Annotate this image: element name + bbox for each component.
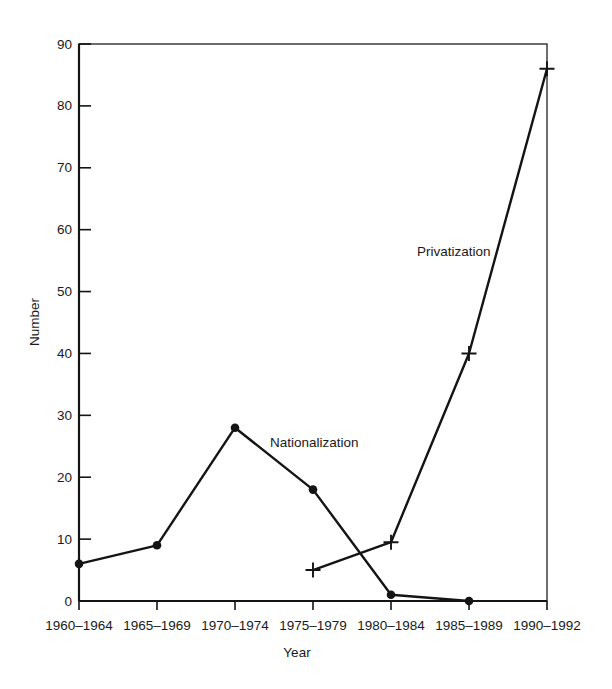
data-point-marker-circle	[75, 560, 84, 569]
chart-figure: 01020304050607080901960–19641965–1969197…	[0, 0, 612, 689]
x-axis-tick-label: 1965–1969	[123, 618, 191, 633]
x-axis-tick-label: 1985–1989	[435, 618, 503, 633]
data-point-marker-circle	[231, 423, 240, 432]
data-point-marker-plus	[306, 563, 321, 578]
y-axis-tick-label: 10	[57, 532, 72, 547]
data-point-marker-circle	[387, 591, 396, 600]
chart-canvas: 01020304050607080901960–19641965–1969197…	[0, 0, 612, 689]
series-label-privatization: Privatization	[417, 244, 491, 259]
series-line-nationalization	[79, 428, 469, 601]
y-axis-tick-label: 50	[57, 284, 72, 299]
y-axis-title: Number	[27, 298, 42, 346]
y-axis-tick-label: 90	[57, 37, 72, 52]
x-axis-title: Year	[283, 645, 310, 660]
x-axis-tick-label: 1970–1974	[201, 618, 269, 633]
y-axis-tick-label: 20	[57, 470, 72, 485]
data-point-marker-plus	[462, 346, 477, 361]
series-line-privatization	[313, 69, 547, 570]
y-axis-tick-label: 70	[57, 160, 72, 175]
series-label-nationalization: Nationalization	[270, 435, 359, 450]
y-axis-tick-label: 0	[64, 594, 72, 609]
x-axis-tick-label: 1960–1964	[45, 618, 113, 633]
y-axis-tick-label: 60	[57, 222, 72, 237]
y-axis-tick-label: 30	[57, 408, 72, 423]
data-point-marker-circle	[309, 485, 318, 494]
data-point-marker-circle	[465, 597, 474, 606]
y-axis-tick-label: 40	[57, 346, 72, 361]
data-point-marker-plus	[540, 61, 555, 76]
x-axis-tick-label: 1975–1979	[279, 618, 347, 633]
data-point-marker-plus	[384, 535, 399, 550]
y-axis-tick-label: 80	[57, 98, 72, 113]
x-axis-tick-label: 1980–1984	[357, 618, 425, 633]
data-point-marker-circle	[153, 541, 162, 550]
x-axis-tick-label: 1990–1992	[513, 618, 581, 633]
